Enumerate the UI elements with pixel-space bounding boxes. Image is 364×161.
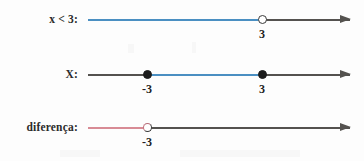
open-circle-minus-3 <box>143 123 152 132</box>
row-label-difference: diferença: <box>0 121 78 133</box>
arrowhead-right-1 <box>340 15 351 23</box>
axis-line-1 <box>262 19 350 21</box>
row-label-inequality: x < 3: <box>0 13 78 25</box>
open-circle-3 <box>258 15 267 24</box>
tick-label-minus-3: -3 <box>127 82 167 97</box>
row-label-set: X: <box>0 68 78 80</box>
highlight-segment-3 <box>88 127 148 129</box>
tick-label-3: 3 <box>242 82 282 97</box>
filled-circle-3 <box>258 70 267 79</box>
arrowhead-right-2 <box>340 70 351 78</box>
highlight-segment-2 <box>149 74 263 76</box>
number-line-row-3: diferença: -3 <box>0 108 364 158</box>
number-line-row-2: X: -3 3 <box>0 55 364 105</box>
highlight-segment-1 <box>88 19 264 21</box>
number-line-figure: x < 3: 3 X: -3 3 diferença: -3 <box>0 0 364 161</box>
filled-circle-minus-3 <box>143 70 152 79</box>
arrowhead-right-3 <box>340 123 351 131</box>
number-line-row-1: x < 3: 3 <box>0 0 364 50</box>
tick-label-3: 3 <box>242 27 282 42</box>
axis-line-3 <box>147 127 350 129</box>
tick-label-minus-3: -3 <box>127 135 167 150</box>
